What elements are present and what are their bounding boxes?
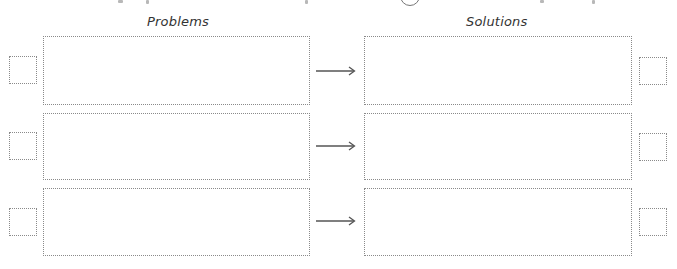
right-arrow-icon xyxy=(316,141,356,151)
circle-marker-icon xyxy=(400,0,420,6)
solutions-heading: Solutions xyxy=(466,14,528,29)
solution-field-1[interactable] xyxy=(364,36,632,105)
problem-field-3[interactable] xyxy=(43,188,310,256)
problems-heading: Problems xyxy=(147,14,209,29)
right-arrow-icon xyxy=(316,66,356,76)
text-fragment xyxy=(305,0,308,4)
problem-field-2[interactable] xyxy=(43,113,310,180)
solution-field-3[interactable] xyxy=(364,188,632,256)
right-arrow-icon xyxy=(316,216,356,226)
problem-checkbox-3[interactable] xyxy=(9,208,37,236)
solution-field-2[interactable] xyxy=(364,113,632,180)
solution-checkbox-1[interactable] xyxy=(639,57,667,85)
problem-checkbox-1[interactable] xyxy=(9,56,37,84)
text-fragment xyxy=(118,0,123,3)
solution-checkbox-2[interactable] xyxy=(639,133,667,161)
text-fragment xyxy=(146,0,149,4)
problem-checkbox-2[interactable] xyxy=(9,132,37,160)
solution-checkbox-3[interactable] xyxy=(639,208,667,236)
text-fragment xyxy=(540,0,544,3)
problem-field-1[interactable] xyxy=(43,36,310,105)
problems-solutions-worksheet: Problems Solutions xyxy=(0,0,677,269)
text-fragment xyxy=(592,0,595,4)
